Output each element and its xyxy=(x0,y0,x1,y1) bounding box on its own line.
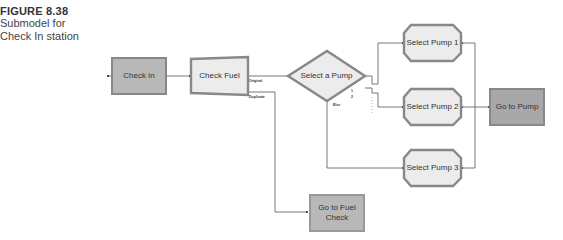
go-to-fuel-check-line-1: Go to Fuel xyxy=(318,203,355,213)
port-label-else: Else xyxy=(333,103,340,107)
node-label-select-a-pump: Select a Pump xyxy=(288,58,365,94)
node-label-select-pump-3: Select Pump 3 xyxy=(404,150,461,186)
port-label-out-2: 2 xyxy=(351,95,353,99)
node-label-select-pump-2: Select Pump 2 xyxy=(404,89,461,125)
flowchart-canvas xyxy=(0,0,563,240)
node-label-go-to-fuel-check: Go to Fuel Check xyxy=(310,195,364,231)
node-label-select-pump-1: Select Pump 1 xyxy=(404,25,461,61)
node-label-go-to-pump: Go to Pump xyxy=(490,89,544,125)
node-label-check-in: Check In xyxy=(112,58,166,94)
port-label-duplicate: Duplicate xyxy=(249,95,265,99)
node-label-check-fuel: Check Fuel xyxy=(191,58,248,94)
port-label-original: Original xyxy=(249,79,262,83)
go-to-fuel-check-line-2: Check xyxy=(326,213,349,223)
port-label-out-1: 1 xyxy=(351,89,353,93)
